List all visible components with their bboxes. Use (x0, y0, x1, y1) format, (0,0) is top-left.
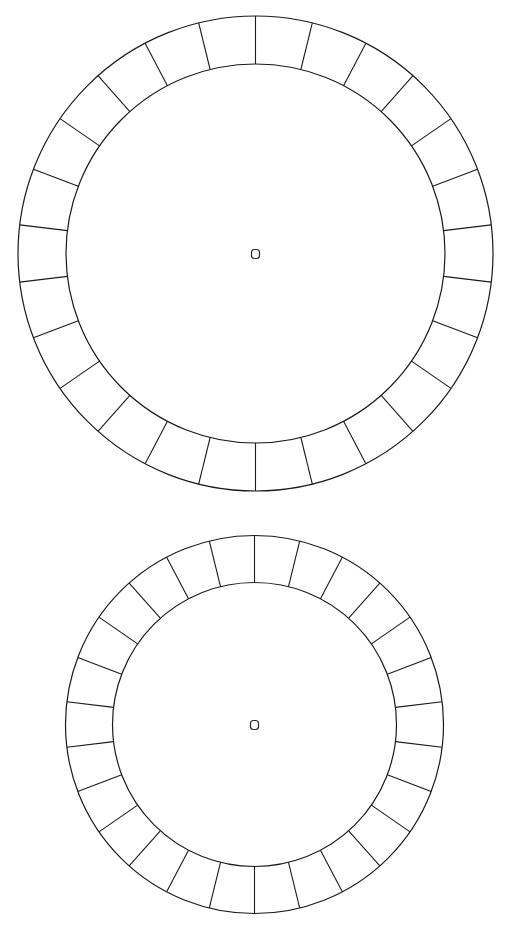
inner-circle (113, 583, 397, 867)
center-marker-icon (252, 250, 260, 259)
small-segmented-ring (66, 536, 444, 914)
ring-segment (66, 702, 114, 748)
ring-segment (18, 225, 67, 282)
ring-segment (395, 702, 443, 748)
center-marker-icon (251, 721, 259, 730)
inner-circle (66, 64, 445, 443)
ring-segment (444, 225, 493, 282)
ring-diagram-canvas (0, 0, 528, 932)
large-segmented-ring (18, 16, 493, 491)
